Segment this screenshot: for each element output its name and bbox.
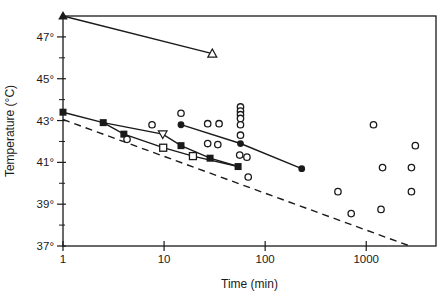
y-tick-label: 39° [37,198,54,210]
filled-square-marker [60,109,67,116]
open-square-marker [189,153,196,160]
open-square-marker [160,144,167,151]
open-circle-marker [216,120,222,126]
open-circle-marker [178,110,184,116]
open-circle-marker [378,206,384,212]
filled-square-marker [177,142,184,149]
open-circle-marker [237,152,243,158]
open-circle-marker [204,120,210,126]
open-inverted-triangle-marker [158,131,167,139]
open-circle-marker [370,122,376,128]
open-circle-marker [237,122,243,128]
open-circle-marker [149,122,155,128]
y-tick-label: 41° [37,156,54,168]
y-tick-label: 45° [37,73,54,85]
filled-square-marker [207,155,214,162]
x-axis-label: Time (min) [221,277,278,291]
open-circle-marker [237,132,243,138]
temperature-vs-time-chart: 110100100047°45°43°41°39°37°Time (min)Te… [0,0,447,308]
open-circle-marker [237,115,243,121]
open-circle-marker [335,188,341,194]
series-line-triangle-line [63,16,212,54]
y-tick-label: 43° [37,115,54,127]
filled-circle-marker [298,165,305,172]
open-circle-marker [244,154,250,160]
y-tick-label: 37° [37,240,54,252]
x-tick-label: 1000 [353,253,379,265]
open-circle-marker [412,142,418,148]
y-tick-label: 47° [37,31,54,43]
filled-square-marker [235,163,242,170]
filled-circle-marker [237,140,244,147]
filled-square-marker [100,119,107,126]
scatter-plot-figure: 110100100047°45°43°41°39°37°Time (min)Te… [0,0,447,308]
x-tick-label: 1 [60,253,66,265]
x-tick-label: 10 [158,253,171,265]
series-line-dashed-threshold-line [63,120,410,247]
open-circle-marker [124,136,130,142]
open-circle-marker [408,164,414,170]
open-circle-marker [204,140,210,146]
open-circle-marker [245,174,251,180]
x-tick-label: 100 [256,253,275,265]
filled-triangle-marker [58,11,68,20]
open-circle-marker [215,141,221,147]
open-circle-marker [379,164,385,170]
y-axis-label: Temperature (°C) [3,85,17,177]
open-circle-marker [348,210,354,216]
open-circle-marker [408,188,414,194]
filled-circle-marker [178,121,185,128]
